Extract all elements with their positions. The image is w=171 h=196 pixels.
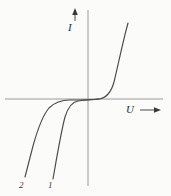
plot-canvas	[0, 0, 171, 196]
voltage-axis-label: U	[126, 104, 134, 115]
voltage-arrow-head-icon	[154, 107, 161, 112]
curve-1-label: 1	[48, 181, 53, 190]
current-axis-label: I	[68, 22, 72, 33]
current-arrow-head-icon	[72, 8, 78, 15]
iv-characteristic-figure: I U 2 1	[0, 0, 171, 196]
curve-2-label: 2	[19, 181, 24, 190]
